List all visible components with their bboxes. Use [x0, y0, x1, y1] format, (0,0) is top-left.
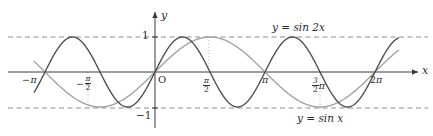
fraction-denominator: 2: [312, 85, 319, 94]
minus-sign-glyph: −: [76, 79, 84, 89]
x-axis-arrow-icon: [412, 69, 418, 74]
y-axis-label: y: [161, 10, 167, 21]
x-tick-label-pi: π: [262, 75, 268, 85]
fraction-three-over-two: 3 2: [312, 77, 319, 94]
pi-glyph: π: [319, 81, 325, 91]
fraction-pi-over-two: π 2: [84, 75, 91, 92]
fraction-pi-over-two: π 2: [203, 77, 210, 94]
curve-label-sin-x: y = sin x: [297, 113, 343, 124]
x-tick-label-two-pi: 2 π: [370, 75, 382, 85]
fraction-denominator: 2: [203, 85, 210, 94]
curve-label-sin-2x: y = sin 2x: [272, 22, 325, 33]
y-tick-label-one: 1: [142, 30, 149, 41]
fraction-numerator: π: [203, 77, 210, 85]
pi-glyph: π: [262, 74, 268, 85]
fraction-numerator: 3: [312, 77, 319, 85]
minus-sign-glyph: −: [22, 75, 30, 85]
pi-glyph: π: [30, 75, 36, 85]
pi-glyph: π: [376, 75, 382, 85]
fraction-denominator: 2: [85, 83, 92, 92]
x-tick-label-neg-half-pi: − π 2: [76, 75, 91, 92]
x-axis-label: x: [422, 65, 428, 76]
plot-canvas: [0, 0, 433, 136]
y-tick-label-negative-one: −1: [136, 110, 151, 121]
fraction-numerator: π: [84, 75, 91, 83]
x-tick-label-half-pi: π 2: [203, 75, 210, 94]
x-axis: [8, 69, 418, 74]
x-tick-label-neg-pi: − π: [22, 75, 37, 85]
math-figure: y x O 1 −1 − π − π 2 π 2 π: [0, 0, 433, 136]
origin-label: O: [158, 75, 166, 85]
y-axis-arrow-icon: [152, 12, 157, 18]
x-tick-label-three-half-pi: 3 2 π: [312, 75, 325, 94]
